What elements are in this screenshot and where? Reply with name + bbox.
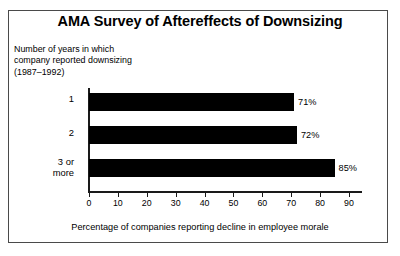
x-tick-label-40: 40 [200, 198, 210, 208]
bar-1 [89, 93, 294, 111]
y-axis-caption-line-1: Number of years in which [14, 44, 132, 55]
bar-3 [89, 159, 335, 177]
x-tick-10 [118, 192, 119, 197]
x-tick-30 [176, 192, 177, 197]
x-tick-label-20: 20 [142, 198, 152, 208]
y-axis-caption-line-3: (1987–1992) [14, 67, 132, 78]
y-axis-caption-line-2: company reported downsizing [14, 55, 132, 66]
x-tick-label-70: 70 [286, 198, 296, 208]
y-tick-label-3: 3 or more [53, 157, 74, 178]
y-tick-label-1: 1 [69, 94, 74, 105]
x-tick-60 [262, 192, 263, 197]
y-tick-label-3-line-1: 3 or [53, 157, 74, 168]
y-tick-label-2: 2 [69, 128, 74, 139]
x-tick-80 [320, 192, 321, 197]
y-tick-label-1-line-1: 1 [69, 94, 74, 105]
x-tick-0 [89, 192, 90, 197]
x-tick-50 [233, 192, 234, 197]
x-tick-90 [349, 192, 350, 197]
x-tick-label-60: 60 [257, 198, 267, 208]
bar-1-value-label: 71% [294, 97, 316, 107]
x-tick-20 [147, 192, 148, 197]
y-tick-label-3-line-2: more [53, 168, 74, 179]
x-tick-label-80: 80 [315, 198, 325, 208]
chart-title: AMA Survey of Aftereffects of Downsizing [0, 13, 400, 29]
y-tick-label-2-line-1: 2 [69, 128, 74, 139]
x-tick-label-10: 10 [113, 198, 123, 208]
x-tick-label-90: 90 [344, 198, 354, 208]
x-tick-70 [291, 192, 292, 197]
bar-3-value-label: 85% [335, 163, 357, 173]
plot-area: 1 2 3 or more 71% 72% 85% 01020304050607… [80, 88, 370, 198]
x-axis-title: Percentage of companies reporting declin… [0, 222, 400, 232]
x-tick-label-50: 50 [229, 198, 239, 208]
x-tick-40 [205, 192, 206, 197]
bar-2 [89, 126, 297, 144]
y-axis-caption: Number of years in which company reporte… [14, 44, 132, 78]
x-tick-label-30: 30 [171, 198, 181, 208]
x-tick-label-0: 0 [87, 198, 92, 208]
bar-2-value-label: 72% [297, 130, 319, 140]
